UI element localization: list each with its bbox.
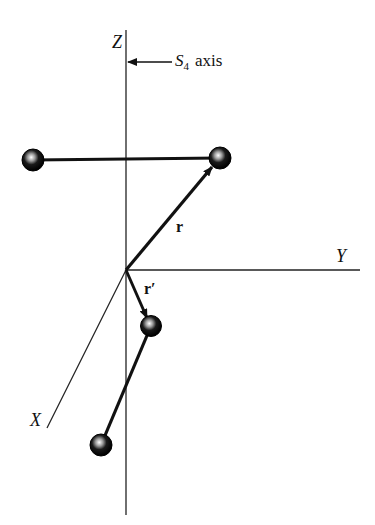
s4-subscript: 4 [184, 60, 190, 72]
z-axis-label: Z [112, 33, 122, 51]
y-axis-label: Y [336, 247, 346, 265]
r-vector [126, 167, 212, 270]
s4-symbol: S [175, 51, 184, 70]
atom-lower [90, 434, 112, 456]
s4-axis-label: S4axis [175, 52, 222, 69]
atom-upper-right [209, 147, 231, 169]
r-vector-label: r [176, 219, 183, 235]
upper-bond [33, 158, 220, 160]
s4-axis-diagram [0, 0, 375, 525]
r-prime-vector-label: r′ [144, 281, 156, 297]
x-axis-label: X [30, 411, 41, 429]
s4-axis-word: axis [195, 51, 222, 70]
atom-middle [141, 316, 162, 337]
x-axis-line [47, 270, 126, 428]
atom-upper-left [22, 149, 44, 171]
